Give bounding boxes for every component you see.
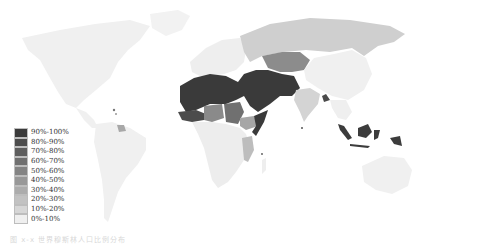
legend-item-10-20: 10%-20% xyxy=(14,205,94,215)
legend-label: 80%-90% xyxy=(31,138,64,147)
region-west-africa xyxy=(178,110,206,122)
region-central-america xyxy=(76,108,98,128)
legend-item-50-60: 50%-60% xyxy=(14,166,94,176)
region-russia xyxy=(240,18,405,62)
region-nigeria-chad xyxy=(204,104,224,122)
legend-swatch xyxy=(14,205,28,215)
legend-label: 60%-70% xyxy=(31,157,64,166)
legend-item-80-90: 80%-90% xyxy=(14,138,94,148)
region-south-america xyxy=(94,122,146,222)
legend-swatch xyxy=(14,147,28,157)
legend-swatch xyxy=(14,214,28,224)
legend-label: 40%-50% xyxy=(31,176,64,185)
legend-item-90-100: 90%-100% xyxy=(14,128,94,138)
legend-swatch xyxy=(14,128,28,138)
region-indonesia-papua xyxy=(390,136,402,146)
legend-label: 90%-100% xyxy=(31,128,69,137)
legend-label: 70%-80% xyxy=(31,147,64,156)
region-southeast-asia xyxy=(330,100,352,120)
legend-item-60-70: 60%-70% xyxy=(14,157,94,167)
legend-item-70-80: 70%-80% xyxy=(14,147,94,157)
legend-label: 30%-40% xyxy=(31,186,64,195)
legend-item-30-40: 30%-40% xyxy=(14,186,94,196)
region-madagascar xyxy=(262,158,266,174)
legend-swatch xyxy=(14,157,28,167)
region-indonesia-java xyxy=(350,144,370,148)
region-europe xyxy=(190,38,246,76)
legend-label: 50%-60% xyxy=(31,167,64,176)
caribbean-islands xyxy=(115,113,117,115)
region-india xyxy=(294,88,320,122)
legend-label: 20%-30% xyxy=(31,195,64,204)
caribbean-islands xyxy=(113,109,115,111)
comoros xyxy=(261,153,263,155)
region-australia xyxy=(362,156,412,194)
legend-swatch xyxy=(14,166,28,176)
legend-item-0-10: 0%-10% xyxy=(14,214,94,224)
region-central-asia xyxy=(262,52,310,72)
legend-swatch xyxy=(14,176,28,186)
region-north-america xyxy=(22,20,150,108)
region-indonesia-sumatra xyxy=(338,124,352,140)
legend-swatch xyxy=(14,195,28,205)
legend-item-40-50: 40%-50% xyxy=(14,176,94,186)
region-indonesia-sulawesi xyxy=(374,130,380,140)
region-central-south-africa xyxy=(192,122,250,188)
legend-label: 0%-10% xyxy=(31,215,60,224)
map-legend: 90%-100% 80%-90% 70%-80% 60%-70% 50%-60%… xyxy=(14,128,94,224)
legend-swatch xyxy=(14,138,28,148)
region-indonesia-borneo xyxy=(358,124,372,138)
maldives xyxy=(301,127,303,129)
region-bangladesh xyxy=(322,94,330,102)
region-greenland xyxy=(150,10,190,36)
legend-swatch xyxy=(14,186,28,196)
legend-label: 10%-20% xyxy=(31,205,64,214)
figure-caption: 图 x-x 世界穆斯林人口比例分布 xyxy=(10,234,126,244)
legend-item-20-30: 20%-30% xyxy=(14,195,94,205)
